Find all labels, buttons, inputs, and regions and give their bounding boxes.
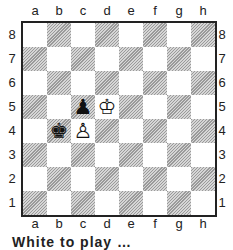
square-b1[interactable] bbox=[47, 191, 71, 215]
rank-label-2: 2 bbox=[5, 167, 19, 191]
square-b8[interactable] bbox=[47, 23, 71, 47]
square-e5[interactable] bbox=[119, 95, 143, 119]
square-f4[interactable] bbox=[143, 119, 167, 143]
file-label-b: b bbox=[47, 216, 71, 231]
square-h2[interactable] bbox=[191, 167, 215, 191]
square-g6[interactable] bbox=[167, 71, 191, 95]
square-h5[interactable] bbox=[191, 95, 215, 119]
square-h7[interactable] bbox=[191, 47, 215, 71]
black-pawn-icon[interactable]: ♟ bbox=[74, 95, 93, 119]
square-g1[interactable] bbox=[167, 191, 191, 215]
square-d6[interactable] bbox=[95, 71, 119, 95]
square-d2[interactable] bbox=[95, 167, 119, 191]
rank-label-4: 4 bbox=[5, 119, 19, 143]
square-f8[interactable] bbox=[143, 23, 167, 47]
rank-label-7: 7 bbox=[215, 47, 229, 71]
square-a1[interactable] bbox=[23, 191, 47, 215]
rank-label-3: 3 bbox=[5, 143, 19, 167]
square-c5[interactable]: ♟ bbox=[71, 95, 95, 119]
rank-label-8: 8 bbox=[5, 23, 19, 47]
file-label-h: h bbox=[191, 216, 215, 231]
square-c6[interactable] bbox=[71, 71, 95, 95]
file-label-g: g bbox=[167, 216, 191, 231]
square-h4[interactable] bbox=[191, 119, 215, 143]
square-a7[interactable] bbox=[23, 47, 47, 71]
rank-label-6: 6 bbox=[5, 71, 19, 95]
square-b3[interactable] bbox=[47, 143, 71, 167]
rank-label-5: 5 bbox=[5, 95, 19, 119]
square-h8[interactable] bbox=[191, 23, 215, 47]
square-d8[interactable] bbox=[95, 23, 119, 47]
square-b5[interactable] bbox=[47, 95, 71, 119]
square-d4[interactable] bbox=[95, 119, 119, 143]
square-h1[interactable] bbox=[191, 191, 215, 215]
square-f1[interactable] bbox=[143, 191, 167, 215]
file-label-e: e bbox=[119, 216, 143, 231]
rank-label-5: 5 bbox=[215, 95, 229, 119]
square-e8[interactable] bbox=[119, 23, 143, 47]
square-h3[interactable] bbox=[191, 143, 215, 167]
square-a6[interactable] bbox=[23, 71, 47, 95]
square-g3[interactable] bbox=[167, 143, 191, 167]
white-pawn-icon[interactable]: ♙ bbox=[74, 119, 93, 143]
square-e4[interactable] bbox=[119, 119, 143, 143]
black-king-icon[interactable]: ♚ bbox=[50, 119, 69, 143]
square-c4[interactable]: ♙ bbox=[71, 119, 95, 143]
square-e6[interactable] bbox=[119, 71, 143, 95]
square-f6[interactable] bbox=[143, 71, 167, 95]
file-label-g: g bbox=[167, 3, 191, 18]
square-g7[interactable] bbox=[167, 47, 191, 71]
square-b7[interactable] bbox=[47, 47, 71, 71]
square-e3[interactable] bbox=[119, 143, 143, 167]
rank-label-6: 6 bbox=[215, 71, 229, 95]
square-d3[interactable] bbox=[95, 143, 119, 167]
square-d5[interactable]: ♔ bbox=[95, 95, 119, 119]
square-a3[interactable] bbox=[23, 143, 47, 167]
square-a2[interactable] bbox=[23, 167, 47, 191]
file-label-e: e bbox=[119, 3, 143, 18]
square-e2[interactable] bbox=[119, 167, 143, 191]
rank-label-1: 1 bbox=[5, 191, 19, 215]
file-label-a: a bbox=[23, 3, 47, 18]
square-g2[interactable] bbox=[167, 167, 191, 191]
square-e1[interactable] bbox=[119, 191, 143, 215]
file-label-c: c bbox=[71, 216, 95, 231]
square-b6[interactable] bbox=[47, 71, 71, 95]
square-a4[interactable] bbox=[23, 119, 47, 143]
rank-label-7: 7 bbox=[5, 47, 19, 71]
square-a8[interactable] bbox=[23, 23, 47, 47]
square-c8[interactable] bbox=[71, 23, 95, 47]
square-c2[interactable] bbox=[71, 167, 95, 191]
square-d7[interactable] bbox=[95, 47, 119, 71]
square-f2[interactable] bbox=[143, 167, 167, 191]
square-h6[interactable] bbox=[191, 71, 215, 95]
chess-board: ♟♔♚♙ bbox=[21, 21, 217, 217]
square-g4[interactable] bbox=[167, 119, 191, 143]
file-label-d: d bbox=[95, 216, 119, 231]
file-label-c: c bbox=[71, 3, 95, 18]
file-label-a: a bbox=[23, 216, 47, 231]
rank-label-8: 8 bbox=[215, 23, 229, 47]
white-king-icon[interactable]: ♔ bbox=[98, 95, 117, 119]
square-d1[interactable] bbox=[95, 191, 119, 215]
square-b2[interactable] bbox=[47, 167, 71, 191]
rank-label-3: 3 bbox=[215, 143, 229, 167]
square-g5[interactable] bbox=[167, 95, 191, 119]
square-g8[interactable] bbox=[167, 23, 191, 47]
square-b4[interactable]: ♚ bbox=[47, 119, 71, 143]
rank-label-4: 4 bbox=[215, 119, 229, 143]
square-c3[interactable] bbox=[71, 143, 95, 167]
square-c1[interactable] bbox=[71, 191, 95, 215]
square-c7[interactable] bbox=[71, 47, 95, 71]
square-a5[interactable] bbox=[23, 95, 47, 119]
square-f5[interactable] bbox=[143, 95, 167, 119]
square-f3[interactable] bbox=[143, 143, 167, 167]
file-label-d: d bbox=[95, 3, 119, 18]
file-label-f: f bbox=[143, 3, 167, 18]
rank-label-2: 2 bbox=[215, 167, 229, 191]
file-label-h: h bbox=[191, 3, 215, 18]
file-label-b: b bbox=[47, 3, 71, 18]
rank-label-1: 1 bbox=[215, 191, 229, 215]
square-e7[interactable] bbox=[119, 47, 143, 71]
square-f7[interactable] bbox=[143, 47, 167, 71]
